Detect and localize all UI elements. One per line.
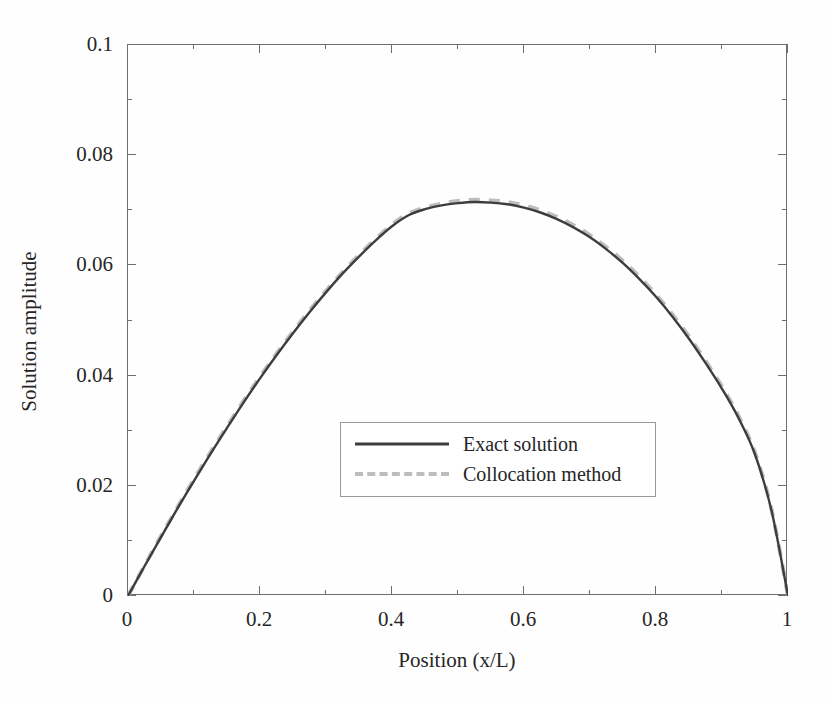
y-tick-label: 0.04 bbox=[0, 362, 113, 387]
data-curves bbox=[128, 45, 788, 596]
legend-label-collocation-method: Collocation method bbox=[463, 463, 621, 486]
y-axis-title: Solution amplitude bbox=[17, 56, 42, 607]
plot-area bbox=[127, 44, 787, 595]
legend-box: Exact solution Collocation method bbox=[340, 422, 656, 497]
figure-canvas: Solution amplitude Position (x/L) 00.20.… bbox=[0, 0, 826, 704]
x-axis-title: Position (x/L) bbox=[127, 648, 787, 673]
x-tick-label: 0 bbox=[122, 607, 133, 632]
y-tick-label: 0.1 bbox=[0, 32, 113, 57]
x-tick-label: 0.6 bbox=[510, 607, 536, 632]
x-tick-label: 0.2 bbox=[246, 607, 272, 632]
y-tick-label: 0 bbox=[0, 583, 113, 608]
legend-swatch-dashed-line-icon bbox=[355, 467, 449, 481]
y-tick-label: 0.02 bbox=[0, 472, 113, 497]
x-tick-label: 0.4 bbox=[378, 607, 404, 632]
x-tick-label: 1 bbox=[782, 607, 793, 632]
series-line-exact bbox=[128, 202, 788, 596]
series-line-collocation bbox=[128, 200, 788, 596]
legend-label-exact-solution: Exact solution bbox=[463, 433, 578, 456]
legend-item-exact-solution: Exact solution bbox=[341, 429, 655, 459]
y-tick-label: 0.06 bbox=[0, 252, 113, 277]
y-tick-label: 0.08 bbox=[0, 142, 113, 167]
legend-item-collocation-method: Collocation method bbox=[341, 459, 655, 489]
x-tick-label: 0.8 bbox=[642, 607, 668, 632]
legend-swatch-solid-line-icon bbox=[355, 437, 449, 451]
